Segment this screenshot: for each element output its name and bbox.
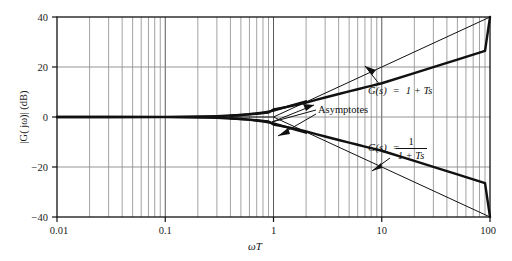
- bode-plot-figure: 40 20 0 −20 −40 0.01 0.1 1 10 100 ωT |G(…: [0, 0, 512, 261]
- asymptotes-label: Asymptotes: [318, 104, 368, 115]
- pole-annot-denominator: 1 + Ts: [398, 150, 425, 161]
- zero-annot-expr: 1 + Ts: [406, 85, 433, 96]
- y-tick-label-neg20: −20: [32, 162, 48, 173]
- x-tick-label-0-01: 0.01: [50, 225, 68, 236]
- svg-text:G(s) = 1 + Ts: G(s) = 1 + Ts: [368, 85, 432, 97]
- y-tick-label-40: 40: [38, 12, 49, 23]
- y-tick-label-20: 20: [38, 62, 49, 73]
- bode-plot-svg: 40 20 0 −20 −40 0.01 0.1 1 10 100 ωT |G(…: [0, 0, 512, 261]
- y-tick-label-neg40: −40: [32, 212, 48, 223]
- x-tick-label-1: 1: [271, 225, 276, 236]
- svg-text:G(s) =: G(s) =: [368, 142, 399, 154]
- y-axis-label: |G( jω)| (dB): [18, 90, 30, 144]
- pole-annot-prefix: G(s): [368, 142, 387, 154]
- x-tick-label-100: 100: [480, 225, 496, 236]
- x-axis-label: ωT: [248, 240, 263, 252]
- figure-background: [0, 0, 512, 261]
- x-tick-label-0-1: 0.1: [159, 225, 172, 236]
- y-tick-label-0: 0: [43, 112, 48, 123]
- zero-annot-prefix: G(s): [368, 85, 387, 97]
- zero-annot-equals: =: [393, 85, 399, 96]
- pole-annot-numerator: 1: [408, 136, 413, 147]
- x-tick-label-10: 10: [377, 225, 388, 236]
